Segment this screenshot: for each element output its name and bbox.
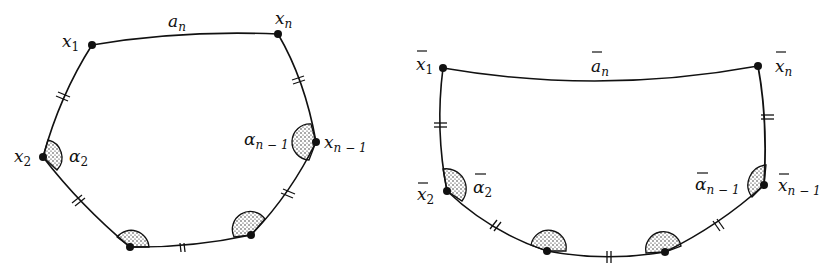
label-alpha2: α2 bbox=[69, 146, 88, 169]
vertex-x-n-minus-1bar bbox=[760, 181, 768, 189]
vertex-bottom-right bbox=[247, 231, 255, 239]
svg-text:xn: xn bbox=[775, 56, 792, 79]
svg-text:α2: α2 bbox=[473, 177, 492, 200]
label-x1bar: x1 bbox=[416, 51, 433, 77]
svg-text:x2: x2 bbox=[417, 184, 434, 207]
vertex-xnbar bbox=[754, 62, 762, 70]
svg-text:x1: x1 bbox=[416, 54, 433, 77]
svg-text:an: an bbox=[591, 56, 609, 79]
vertex-x2bar bbox=[443, 187, 451, 195]
svg-text:αn − 1: αn − 1 bbox=[695, 174, 740, 197]
vertex-x1 bbox=[88, 41, 96, 49]
edge-bl-x2 bbox=[43, 157, 130, 247]
vertex-x2 bbox=[39, 153, 47, 161]
label-xnbar: xn bbox=[775, 52, 792, 79]
label-alpha-n-minus-1: αn − 1 bbox=[244, 129, 289, 152]
label-anbar: an bbox=[591, 52, 609, 79]
right-polygon: x1 xn an x2 α2 αn − 1 xn − 1 bbox=[416, 51, 821, 263]
vertex-bottom-right-bar bbox=[661, 248, 669, 256]
label-x2: x2 bbox=[14, 146, 31, 169]
figure-canvas: x1 xn an x2 α2 αn − 1 xn − 1 bbox=[0, 0, 827, 279]
label-x2bar: x2 bbox=[417, 183, 434, 207]
left-polygon: x1 xn an x2 α2 αn − 1 xn − 1 bbox=[14, 8, 367, 252]
vertex-x1bar bbox=[439, 64, 447, 72]
label-x1: x1 bbox=[62, 31, 79, 54]
tick-marks bbox=[56, 76, 305, 252]
label-alpha2bar: α2 bbox=[473, 174, 492, 200]
vertex-xn bbox=[274, 30, 282, 38]
edge-an bbox=[92, 33, 278, 45]
vertex-bottom-left bbox=[126, 243, 134, 251]
vertex-bottom-left-bar bbox=[543, 247, 551, 255]
vertex-x-n-minus-1 bbox=[312, 138, 320, 146]
label-an: an bbox=[168, 11, 186, 34]
label-x-n-minus-1: xn − 1 bbox=[324, 132, 367, 155]
svg-text:xn − 1: xn − 1 bbox=[778, 175, 821, 198]
label-xn: xn bbox=[275, 8, 292, 31]
label-alpha-n-minus-1bar: αn − 1 bbox=[695, 173, 740, 197]
label-x-n-minus-1bar: xn − 1 bbox=[778, 174, 821, 198]
